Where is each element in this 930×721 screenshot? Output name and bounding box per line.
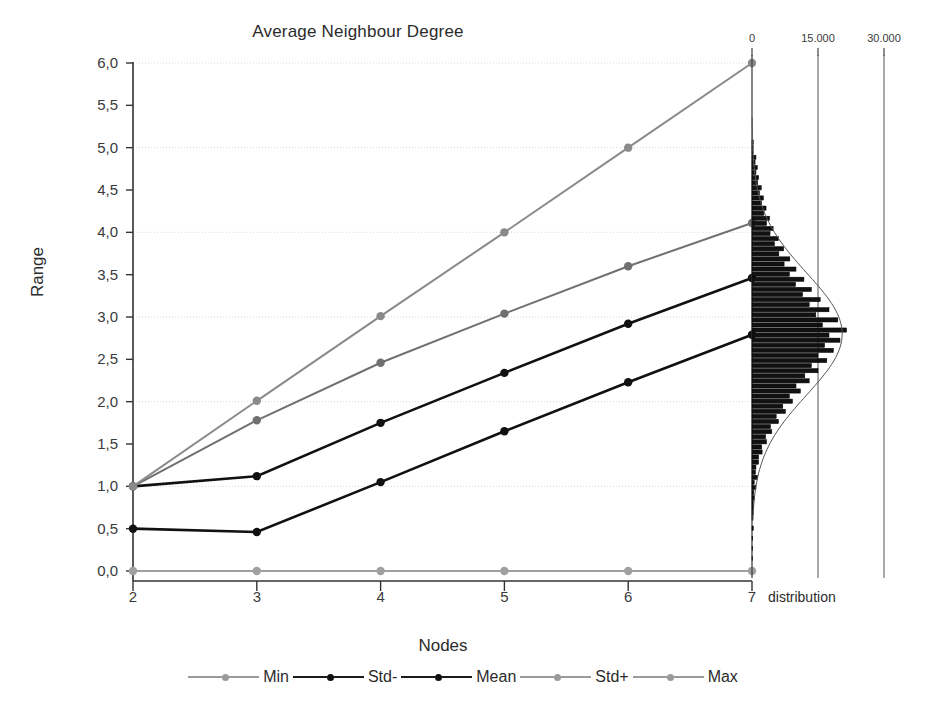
histogram-bar	[752, 379, 809, 383]
histogram-bar	[752, 247, 784, 251]
histogram-bar	[752, 257, 790, 261]
histogram-bar	[752, 501, 753, 505]
histogram-bar	[752, 272, 789, 276]
histogram-bar	[752, 292, 803, 296]
histogram-bar	[752, 338, 840, 342]
histogram-bar	[752, 226, 773, 230]
histogram-bar	[752, 313, 816, 317]
histogram-bar	[752, 394, 789, 398]
legend-line-right	[334, 676, 364, 678]
chart-canvas: Average Neighbour Degree Range Nodes dis…	[0, 0, 930, 721]
histogram-bar	[752, 414, 776, 418]
histogram-bar	[752, 237, 778, 241]
legend-marker-icon	[327, 674, 334, 681]
histogram-bar	[752, 343, 825, 347]
histogram-bar	[752, 384, 796, 388]
legend-line-right	[442, 676, 472, 678]
histogram-bar	[752, 262, 784, 266]
histogram-bar	[752, 450, 762, 454]
legend-line-left	[633, 676, 667, 678]
legend-label: Std-	[364, 668, 401, 686]
legend-item-min[interactable]: Min	[188, 668, 293, 686]
legend-marker-icon	[435, 674, 442, 681]
legend-line-left	[520, 676, 554, 678]
legend-item-std[interactable]: Std+	[520, 668, 632, 686]
histogram-bar	[752, 358, 827, 362]
legend-label: Min	[259, 668, 293, 686]
histogram-bar	[752, 323, 822, 327]
histogram-bar	[752, 470, 756, 474]
histogram-bar	[752, 196, 763, 200]
legend-label: Std+	[591, 668, 632, 686]
histogram-bar	[752, 536, 753, 540]
histogram-bar	[752, 231, 770, 235]
histogram-bar	[752, 297, 820, 301]
legend-line-right	[229, 676, 259, 678]
histogram-bar	[752, 455, 759, 459]
histogram-bar	[752, 419, 778, 423]
legend-label: Max	[704, 668, 742, 686]
legend-item-mean[interactable]: Mean	[401, 668, 520, 686]
histogram-bar	[752, 348, 833, 352]
histogram-bar	[752, 364, 811, 368]
histogram-bar	[752, 369, 818, 373]
legend-line-right	[674, 676, 704, 678]
histogram-bar	[752, 445, 762, 449]
histogram-bar	[752, 374, 805, 378]
histogram-bar	[752, 435, 766, 439]
histogram-bar	[752, 155, 756, 159]
histogram-bar	[752, 491, 754, 495]
histogram-bar	[752, 526, 753, 530]
histogram-bar	[752, 282, 796, 286]
histogram-bar	[752, 424, 770, 428]
legend-line-left	[188, 676, 222, 678]
histogram-bar	[752, 277, 804, 281]
histogram-bar	[752, 221, 767, 225]
histogram-bar	[752, 353, 818, 357]
histogram-bar	[752, 399, 792, 403]
legend-item-max[interactable]: Max	[633, 668, 742, 686]
histogram-bar	[752, 404, 783, 408]
histogram-bar	[752, 333, 829, 337]
legend-marker-icon	[554, 674, 561, 681]
distribution-histogram	[0, 0, 930, 721]
histogram-bar	[752, 389, 800, 393]
legend-item-std[interactable]: Std-	[293, 668, 401, 686]
histogram-bar	[752, 480, 754, 484]
histogram-bar	[752, 308, 829, 312]
histogram-bar	[752, 465, 756, 469]
chart-legend: MinStd-MeanStd+Max	[0, 668, 930, 686]
histogram-bar	[752, 318, 838, 322]
histogram-bar	[752, 303, 809, 307]
histogram-bar	[752, 211, 764, 215]
legend-line-left	[293, 676, 327, 678]
legend-label: Mean	[472, 668, 520, 686]
histogram-bar	[752, 287, 811, 291]
legend-line-right	[561, 676, 591, 678]
histogram-bar	[752, 242, 774, 246]
legend-marker-icon	[667, 674, 674, 681]
histogram-bar	[752, 440, 767, 444]
histogram-bar	[752, 206, 766, 210]
histogram-bar	[752, 252, 779, 256]
legend-line-left	[401, 676, 435, 678]
histogram-bar	[752, 430, 772, 434]
histogram-bar	[752, 267, 796, 271]
histogram-bar	[752, 409, 785, 413]
histogram-bar	[752, 460, 759, 464]
histogram-bar	[752, 328, 847, 332]
histogram-bar	[752, 546, 753, 550]
legend-marker-icon	[222, 674, 229, 681]
